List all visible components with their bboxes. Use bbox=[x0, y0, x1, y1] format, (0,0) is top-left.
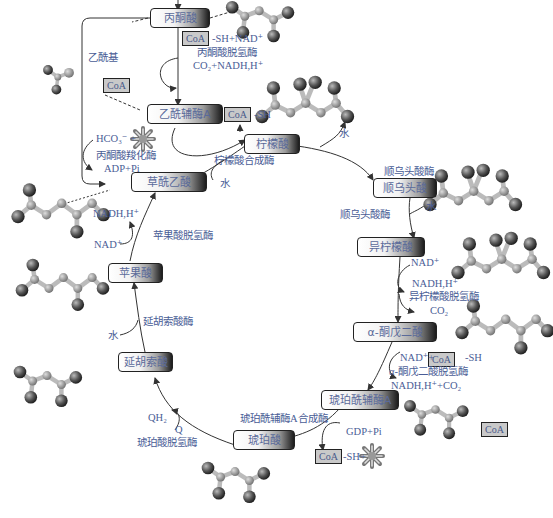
box-isocitrate: 异柠檬酸 bbox=[357, 237, 425, 257]
label-water-aconitase: 水 bbox=[426, 201, 436, 213]
box-cis-aconitate: 顺乌头酸 bbox=[373, 178, 437, 198]
label-adp-pi: ADP+Pi bbox=[104, 163, 140, 175]
box-citrate: 柠檬酸 bbox=[244, 134, 300, 154]
label-acetyl-group: 乙酰基 bbox=[88, 52, 118, 64]
label-acetylcoa-sh: -SH bbox=[254, 109, 271, 121]
label-mdh-nad: NAD⁺ bbox=[94, 239, 122, 251]
malate-molecule bbox=[16, 259, 110, 311]
label-aconitase-1: 顺乌头酸酶 bbox=[384, 166, 434, 178]
label-akg-nad: NAD⁺+ bbox=[400, 352, 434, 364]
succinyl-coa-molecule bbox=[404, 400, 469, 439]
coa-tag-pdh: CoA bbox=[182, 31, 209, 46]
label-pdh-out: CO₂+NADH,H⁺ bbox=[193, 60, 263, 72]
label-idh-co2: CO₂ bbox=[430, 305, 448, 317]
coa-tag-acetyl: CoA bbox=[103, 78, 130, 93]
label-water-top: 水 bbox=[339, 128, 349, 140]
label-idh-nadh: NADH,H⁺ bbox=[412, 278, 458, 290]
acetyl-molecule bbox=[43, 65, 74, 94]
fumarate-molecule bbox=[14, 366, 82, 407]
coa-tag-acetylcoa: CoA bbox=[224, 107, 251, 122]
tca-cycle-diagram: 丙酮酸 乙酰辅酶A 柠檬酸 顺乌头酸 异柠檬酸 α-酮戊二酸 琥珀酰辅酶A 琥珀… bbox=[0, 0, 553, 518]
box-oxaloacetate: 草酰乙酸 bbox=[131, 172, 207, 192]
label-sdh-enzyme: 琥珀酸脱氢酶 bbox=[137, 437, 197, 449]
label-q: Q bbox=[175, 424, 183, 436]
box-alpha-ketoglutarate: α-酮戊二酸 bbox=[353, 322, 437, 342]
label-water-fumarase: 水 bbox=[108, 330, 118, 342]
label-citrate-synthase: 柠檬酸合成酶 bbox=[214, 155, 274, 167]
label-scs-enzyme: 琥珀酰辅酶A合成酶 bbox=[240, 413, 328, 425]
alpha-kg-molecule bbox=[455, 299, 553, 354]
label-mdh-enzyme: 苹果酸脱氢酶 bbox=[153, 230, 213, 242]
label-qh2: QH₂ bbox=[148, 412, 167, 424]
label-aconitase-2: 顺乌头酸酶 bbox=[340, 209, 390, 221]
label-hco3: HCO₃⁻ + bbox=[96, 133, 136, 145]
label-idh-nad: NAD⁺ bbox=[411, 257, 439, 269]
label-gdp-pi: GDP+Pi bbox=[346, 426, 382, 438]
coa-tag-succinyl-molecule: CoA bbox=[481, 422, 508, 437]
box-pyruvate: 丙酮酸 bbox=[150, 8, 210, 28]
label-akg-out: NADH,H⁺+CO₂ bbox=[391, 380, 461, 392]
label-fumarase-enzyme: 延胡索酸酶 bbox=[143, 316, 193, 328]
label-akgdh-enzyme: α-酮戊二酸脱氢酶 bbox=[389, 366, 468, 378]
box-fumarate: 延胡索酸 bbox=[118, 352, 173, 372]
label-water-citrate: 水 bbox=[220, 178, 230, 190]
box-acetyl-coa: 乙酰辅酶A bbox=[147, 104, 223, 124]
label-pdh-enzyme: 丙酮酸脱氢酶 bbox=[197, 47, 257, 59]
label-scs-sh: -SH+ bbox=[343, 451, 366, 463]
box-succinate: 琥珀酸 bbox=[233, 430, 295, 450]
label-idh-enzyme: 异柠檬酸脱氢酶 bbox=[409, 291, 479, 303]
label-pyruvate-carboxylase: 丙酮酸羧化酶 bbox=[96, 150, 156, 162]
cis-aconitate-molecule bbox=[423, 164, 522, 212]
label-mdh-nadh: NADH,H⁺ bbox=[93, 208, 139, 220]
box-malate: 苹果酸 bbox=[108, 263, 163, 283]
isocitrate-molecule bbox=[451, 232, 550, 280]
box-succinyl-coa: 琥珀酰辅酶A bbox=[321, 390, 399, 410]
label-akg-sh: -SH bbox=[465, 352, 482, 364]
label-pdh-in: -SH+NAD⁺ bbox=[212, 33, 263, 45]
succinate-molecule bbox=[202, 462, 270, 503]
coa-tag-scs: CoA bbox=[315, 449, 342, 464]
